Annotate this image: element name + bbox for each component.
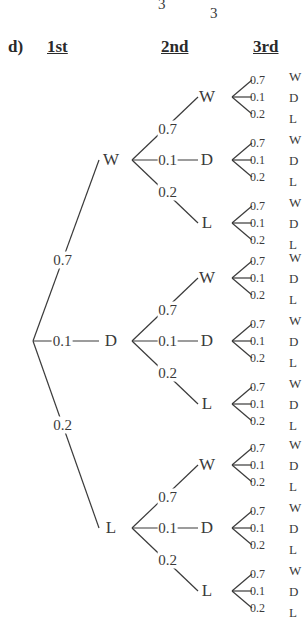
leaf-d: D xyxy=(289,272,298,285)
prob-3rd: 0.2 xyxy=(250,108,265,120)
leaf-l: L xyxy=(289,356,297,369)
branch-3rd xyxy=(232,261,252,278)
prob-2nd: 0.1 xyxy=(157,520,178,537)
branch-3rd xyxy=(232,324,252,341)
branch-3rd xyxy=(232,404,252,421)
prob-2nd: 0.1 xyxy=(157,333,178,350)
prob-3rd: 0.1 xyxy=(250,91,265,103)
prob-3rd: 0.7 xyxy=(250,137,265,149)
leaf-d: D xyxy=(289,217,298,230)
node-2nd-d: D xyxy=(201,150,213,170)
branch-3rd xyxy=(232,223,252,240)
prob-2nd: 0.7 xyxy=(157,120,178,137)
prob-3rd: 0.7 xyxy=(250,381,265,393)
prob-3rd: 0.2 xyxy=(250,602,265,614)
branch-3rd xyxy=(232,206,252,223)
prob-2nd: 0.7 xyxy=(157,301,178,318)
prob-2nd: 0.2 xyxy=(157,364,178,381)
branch-3rd xyxy=(232,387,252,404)
prob-2nd: 0.2 xyxy=(157,551,178,568)
node-1st-w: W xyxy=(103,150,119,170)
leaf-d: D xyxy=(289,459,298,472)
leaf-w: W xyxy=(289,377,301,390)
prob-3rd: 0.2 xyxy=(250,539,265,551)
prob-1st-d: 0.1 xyxy=(52,333,73,350)
node-2nd-w: W xyxy=(199,87,215,107)
leaf-w: W xyxy=(289,70,301,83)
branch-3rd xyxy=(232,528,252,545)
leaf-w: W xyxy=(289,564,301,577)
prob-3rd: 0.7 xyxy=(250,74,265,86)
leaf-l: L xyxy=(289,606,297,619)
leaf-d: D xyxy=(289,335,298,348)
leaf-d: D xyxy=(289,154,298,167)
prob-3rd: 0.1 xyxy=(250,459,265,471)
prob-3rd: 0.2 xyxy=(250,234,265,246)
leaf-d: D xyxy=(289,398,298,411)
prob-2nd: 0.1 xyxy=(157,152,178,169)
leaf-l: L xyxy=(289,293,297,306)
branch-3rd xyxy=(232,591,252,608)
prob-3rd: 0.7 xyxy=(250,200,265,212)
leaf-l: L xyxy=(289,112,297,125)
branch-3rd xyxy=(232,80,252,97)
node-2nd-w: W xyxy=(199,455,215,475)
prob-3rd: 0.1 xyxy=(250,398,265,410)
prob-2nd: 0.2 xyxy=(157,183,178,200)
prob-3rd: 0.2 xyxy=(250,415,265,427)
leaf-l: L xyxy=(289,480,297,493)
branch-3rd xyxy=(232,341,252,358)
branch-3rd xyxy=(232,511,252,528)
leaf-d: D xyxy=(289,585,298,598)
node-2nd-d: D xyxy=(201,331,213,351)
leaf-w: W xyxy=(289,196,301,209)
leaf-l: L xyxy=(289,419,297,432)
node-2nd-l: L xyxy=(202,581,212,601)
node-1st-l: L xyxy=(106,518,116,538)
prob-3rd: 0.7 xyxy=(250,318,265,330)
leaf-d: D xyxy=(289,91,298,104)
node-1st-d: D xyxy=(105,331,117,351)
prob-3rd: 0.7 xyxy=(250,505,265,517)
prob-2nd: 0.7 xyxy=(157,488,178,505)
node-2nd-w: W xyxy=(199,268,215,288)
prob-3rd: 0.2 xyxy=(250,171,265,183)
node-2nd-l: L xyxy=(202,394,212,414)
leaf-w: W xyxy=(289,501,301,514)
branch-1st-l xyxy=(33,341,99,528)
prob-3rd: 0.7 xyxy=(250,568,265,580)
leaf-w: W xyxy=(289,314,301,327)
prob-1st-l: 0.2 xyxy=(52,417,73,434)
branch-3rd xyxy=(232,574,252,591)
prob-3rd: 0.1 xyxy=(250,272,265,284)
node-2nd-d: D xyxy=(201,518,213,538)
leaf-l: L xyxy=(289,175,297,188)
prob-3rd: 0.2 xyxy=(250,476,265,488)
branch-3rd xyxy=(232,160,252,177)
branch-3rd xyxy=(232,143,252,160)
prob-3rd: 0.2 xyxy=(250,289,265,301)
prob-3rd: 0.1 xyxy=(250,154,265,166)
prob-3rd: 0.1 xyxy=(250,522,265,534)
branch-3rd xyxy=(232,448,252,465)
leaf-w: W xyxy=(289,251,301,264)
prob-3rd: 0.7 xyxy=(250,442,265,454)
prob-3rd: 0.1 xyxy=(250,335,265,347)
prob-3rd: 0.1 xyxy=(250,217,265,229)
prob-3rd: 0.7 xyxy=(250,255,265,267)
leaf-d: D xyxy=(289,522,298,535)
branch-3rd xyxy=(232,97,252,114)
prob-1st-w: 0.7 xyxy=(52,251,73,268)
prob-3rd: 0.1 xyxy=(250,585,265,597)
node-2nd-l: L xyxy=(202,213,212,233)
prob-3rd: 0.2 xyxy=(250,352,265,364)
leaf-w: W xyxy=(289,438,301,451)
leaf-l: L xyxy=(289,543,297,556)
branch-3rd xyxy=(232,465,252,482)
leaf-w: W xyxy=(289,133,301,146)
branch-3rd xyxy=(232,278,252,295)
